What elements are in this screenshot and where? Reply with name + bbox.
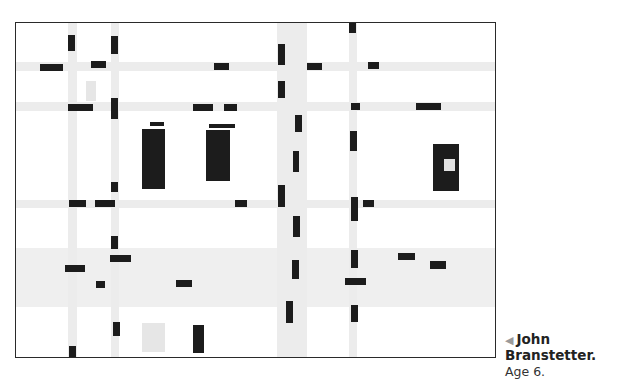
block bbox=[363, 200, 374, 207]
block bbox=[110, 255, 131, 262]
block bbox=[350, 131, 357, 151]
block bbox=[307, 63, 322, 70]
block bbox=[349, 23, 356, 33]
block bbox=[193, 325, 204, 353]
block bbox=[96, 281, 105, 288]
block bbox=[209, 124, 235, 128]
horizontal-stripe bbox=[16, 200, 496, 208]
block bbox=[293, 151, 299, 172]
block bbox=[65, 265, 85, 272]
block bbox=[150, 122, 164, 126]
block bbox=[111, 182, 118, 192]
block bbox=[286, 301, 293, 323]
block bbox=[176, 280, 192, 287]
light-square bbox=[142, 323, 165, 352]
large-block bbox=[142, 129, 165, 189]
block bbox=[278, 185, 285, 207]
artist-name-line: ◀John Branstetter. bbox=[505, 331, 627, 363]
block bbox=[295, 115, 302, 132]
block bbox=[69, 200, 86, 207]
block bbox=[416, 103, 441, 110]
block bbox=[111, 36, 118, 54]
block bbox=[95, 200, 115, 207]
block bbox=[224, 104, 237, 111]
artist-age: Age 6. bbox=[505, 364, 627, 379]
block bbox=[430, 261, 446, 269]
block bbox=[91, 61, 106, 68]
block bbox=[351, 250, 358, 268]
block bbox=[193, 104, 213, 111]
block bbox=[214, 63, 229, 70]
block bbox=[111, 236, 118, 249]
block bbox=[351, 103, 360, 110]
block bbox=[235, 200, 247, 207]
block bbox=[40, 64, 63, 71]
block bbox=[68, 35, 75, 51]
large-block bbox=[206, 130, 230, 181]
artwork-frame bbox=[15, 22, 496, 358]
block bbox=[293, 216, 300, 237]
block bbox=[68, 104, 93, 111]
block bbox=[368, 62, 379, 69]
block bbox=[69, 346, 76, 358]
block bbox=[292, 260, 299, 279]
block bbox=[113, 322, 120, 336]
block bbox=[351, 197, 358, 221]
block bbox=[398, 253, 415, 260]
window-square bbox=[444, 159, 455, 171]
horizontal-stripe bbox=[16, 62, 496, 71]
block bbox=[351, 305, 358, 322]
light-square bbox=[86, 81, 96, 101]
pointer-arrow-icon: ◀ bbox=[505, 334, 513, 347]
vertical-stripe bbox=[68, 23, 77, 358]
block bbox=[278, 81, 285, 98]
caption: ◀John Branstetter. Age 6. bbox=[505, 331, 627, 379]
block bbox=[278, 44, 285, 65]
horizontal-band bbox=[16, 248, 496, 307]
block bbox=[345, 278, 366, 285]
artist-name: John Branstetter. bbox=[505, 331, 596, 363]
block bbox=[111, 98, 118, 119]
